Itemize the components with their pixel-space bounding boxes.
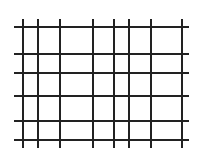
- horizontal-grid-line: [14, 139, 189, 141]
- vertical-grid-line: [92, 19, 94, 148]
- horizontal-grid-line: [14, 95, 189, 97]
- horizontal-grid-line: [14, 53, 189, 55]
- vertical-grid-line: [37, 19, 39, 148]
- vertical-grid-line: [128, 19, 130, 148]
- vertical-grid-line: [113, 19, 115, 148]
- grid-diagram: [0, 0, 201, 155]
- vertical-grid-line: [22, 19, 24, 148]
- horizontal-grid-line: [14, 72, 189, 74]
- vertical-grid-line: [181, 19, 183, 148]
- vertical-grid-line: [59, 19, 61, 148]
- horizontal-grid-line: [14, 120, 189, 122]
- horizontal-grid-line: [14, 26, 189, 28]
- vertical-grid-line: [150, 19, 152, 148]
